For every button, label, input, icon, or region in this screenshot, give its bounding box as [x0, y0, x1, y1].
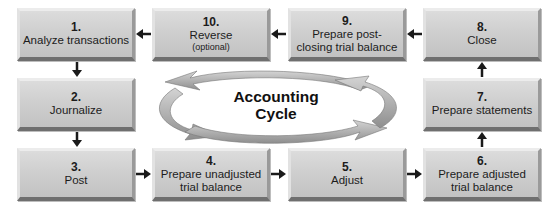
- step-label-line1: Prepare adjusted: [438, 168, 526, 181]
- step-label: Adjust: [331, 174, 363, 187]
- step-number: 4.: [206, 155, 216, 168]
- step-label: Journalize: [50, 104, 102, 117]
- step-number: 8.: [477, 21, 487, 34]
- step-8-box: 8. Close: [423, 8, 541, 61]
- step-number: 10.: [203, 16, 220, 29]
- step-label: Analyze transactions: [23, 34, 129, 47]
- step-note: (optional): [192, 42, 230, 53]
- center-label: Accounting Cycle: [205, 88, 347, 122]
- step-9-box: 9. Prepare post- closing trial balance: [288, 8, 406, 61]
- step-label-line2: closing trial balance: [296, 41, 397, 54]
- step-number: 9.: [342, 15, 352, 28]
- step-number: 3.: [71, 161, 81, 174]
- arrow-right-icon: [407, 169, 422, 179]
- step-number: 5.: [342, 161, 352, 174]
- step-label-line1: Prepare post-: [312, 28, 382, 41]
- step-label: Post: [64, 174, 87, 187]
- center-label-line1: Accounting: [205, 88, 347, 105]
- step-label: Prepare statements: [432, 104, 532, 117]
- arrow-right-icon: [136, 169, 151, 179]
- step-10-box: 10. Reverse (optional): [152, 8, 270, 61]
- step-4-box: 4. Prepare unadjusted trial balance: [152, 148, 270, 201]
- step-number: 6.: [477, 155, 487, 168]
- step-label-line2: trial balance: [180, 181, 242, 194]
- step-label: Reverse: [190, 29, 233, 42]
- step-2-box: 2. Journalize: [17, 78, 135, 131]
- arrow-down-icon: [72, 132, 82, 147]
- arrow-left-icon: [407, 29, 422, 39]
- arrow-down-icon: [72, 62, 82, 77]
- step-label: Close: [467, 34, 496, 47]
- step-5-box: 5. Adjust: [288, 148, 406, 201]
- step-7-box: 7. Prepare statements: [423, 78, 541, 131]
- arrow-left-icon: [271, 29, 286, 39]
- arrow-right-icon: [271, 169, 286, 179]
- step-number: 7.: [477, 91, 487, 104]
- step-1-box: 1. Analyze transactions: [17, 8, 135, 61]
- step-label-line2: trial balance: [451, 181, 513, 194]
- step-number: 1.: [71, 21, 81, 34]
- arrow-up-icon: [477, 62, 487, 77]
- arrow-up-icon: [477, 132, 487, 147]
- arrow-left-icon: [136, 29, 151, 39]
- step-number: 2.: [71, 91, 81, 104]
- step-label-line1: Prepare unadjusted: [161, 168, 261, 181]
- center-label-line2: Cycle: [205, 105, 347, 122]
- step-6-box: 6. Prepare adjusted trial balance: [423, 148, 541, 201]
- step-3-box: 3. Post: [17, 148, 135, 201]
